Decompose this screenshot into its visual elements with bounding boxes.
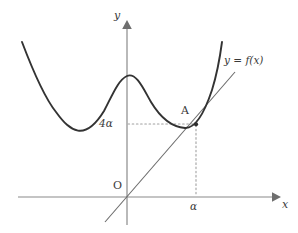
x-axis-label: x (282, 199, 288, 210)
point-a-label: A (181, 105, 189, 116)
curve-equation-label: y = f(x) (224, 55, 263, 66)
function-curve (22, 42, 222, 131)
function-graph-figure: y x O 4α A α y = f(x) (0, 0, 298, 233)
origin-label: O (113, 180, 122, 191)
x-value-label: α (190, 201, 197, 212)
y-axis-arrow-icon (122, 20, 132, 29)
point-a-marker (194, 122, 198, 126)
x-axis-arrow-icon (272, 192, 281, 202)
y-value-label: 4α (99, 118, 113, 129)
y-axis-label: y (114, 10, 120, 21)
tangent-line (105, 72, 235, 222)
graph-canvas (0, 0, 298, 233)
